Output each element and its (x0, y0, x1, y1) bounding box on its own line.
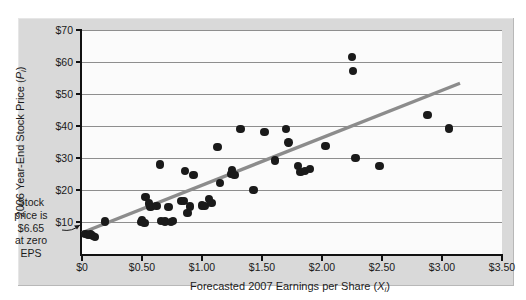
data-point (349, 67, 357, 75)
stock-price-annotation-line-0: Stock (2, 196, 60, 209)
data-point (216, 179, 224, 187)
y-axis-tick-label: $60 (55, 57, 73, 68)
y-axis-title-post: ) (14, 67, 26, 71)
data-point (321, 142, 329, 150)
y-axis-tick (76, 125, 82, 127)
x-axis-tick-label: $2.50 (369, 262, 395, 273)
x-axis-tick (261, 254, 263, 261)
data-point (189, 171, 197, 179)
y-axis-tick (76, 29, 82, 31)
stock-price-annotation-line-1: price is (2, 209, 60, 222)
data-point (152, 202, 160, 210)
data-point (445, 124, 453, 132)
y-axis-tick-label: $50 (55, 89, 73, 100)
y-axis-tick (76, 189, 82, 191)
y-axis-tick-label: $40 (55, 121, 73, 132)
data-point (282, 125, 290, 133)
x-axis-tick (141, 254, 143, 261)
x-axis-tick-label: $3.00 (429, 262, 455, 273)
x-axis-tick-label: $2.00 (309, 262, 335, 273)
y-axis-tick (76, 157, 82, 159)
x-axis-tick (441, 254, 443, 261)
y-axis-tick-label: $70 (55, 25, 73, 36)
x-axis-tick (321, 254, 323, 261)
data-point (207, 199, 215, 207)
y-axis-tick (76, 221, 82, 223)
x-axis-title-post: ) (386, 280, 390, 292)
x-axis-tick (501, 254, 503, 261)
x-axis-tick (201, 254, 203, 261)
x-axis-tick-label: $1.00 (189, 262, 215, 273)
data-point (249, 186, 257, 194)
data-point (140, 219, 148, 227)
x-axis-title: Forecasted 2007 Earnings per Share (Xi) (190, 280, 390, 294)
x-axis-tick-label: $1.50 (249, 262, 275, 273)
data-point (156, 160, 164, 168)
y-axis-title-variable: P (14, 72, 26, 79)
y-axis-tick (76, 93, 82, 95)
scatter-chart-figure: 2006 Year-End Stock Price (Pi) Forecaste… (0, 0, 526, 300)
data-point (375, 162, 383, 170)
stock-price-annotation-line-3: at zero (2, 234, 60, 247)
data-point (213, 143, 221, 151)
stock-price-annotation-line-4: EPS (2, 247, 60, 260)
data-point (230, 171, 238, 179)
data-point (284, 138, 292, 146)
data-point (348, 53, 356, 61)
x-axis-tick-label: $3.50 (489, 262, 515, 273)
stock-price-annotation: Stock price is $6.65 at zero EPS (2, 196, 60, 260)
data-point (271, 156, 279, 164)
gridline-horizontal (82, 158, 502, 159)
y-axis-tick-label: $30 (55, 153, 73, 164)
stock-price-annotation-line-2: $6.65 (2, 222, 60, 235)
data-point (306, 165, 314, 173)
x-axis-tick-label: $0 (76, 262, 88, 273)
data-point (236, 125, 244, 133)
gridline-horizontal (82, 94, 502, 95)
x-axis-tick-label: $0.50 (129, 262, 155, 273)
plot-area: $10$20$30$40$50$60$70$0$0.50$1.00$1.50$2… (80, 30, 502, 256)
gridline-horizontal (82, 190, 502, 191)
data-point (181, 167, 189, 175)
gridline-horizontal (82, 126, 502, 127)
y-axis-tick-label: $10 (55, 217, 73, 228)
data-point (351, 154, 359, 162)
data-point (260, 128, 268, 136)
x-axis-tick (81, 254, 83, 261)
y-axis-tick (76, 61, 82, 63)
x-axis-tick (381, 254, 383, 261)
gridline-horizontal (82, 30, 502, 31)
y-axis-tick-label: $20 (55, 185, 73, 196)
data-point (169, 217, 177, 225)
data-point (423, 111, 431, 119)
y-axis-title: 2006 Year-End Stock Price (Pi) (14, 67, 28, 218)
gridline-horizontal (82, 62, 502, 63)
x-axis-title-pre: Forecasted 2007 Earnings per Share ( (190, 280, 377, 292)
data-point (186, 202, 194, 210)
data-point (91, 233, 99, 241)
data-point (164, 203, 172, 211)
data-point (101, 217, 109, 225)
